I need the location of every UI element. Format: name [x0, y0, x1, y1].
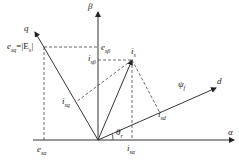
esalpha-label: esα [37, 145, 46, 156]
q-label: q [24, 24, 29, 33]
theta-label: θr [116, 128, 123, 139]
psi-label: ψf [178, 80, 185, 91]
esbeta-label: esβ [101, 43, 110, 54]
isq-label: isq [62, 97, 70, 108]
vector-diagram: β q d α esq=|Es| esβ isβ is isq ψf isd θ… [0, 0, 239, 161]
theta-arc [112, 134, 113, 140]
esq-label: esq=|Es| [7, 42, 34, 53]
beta-label: β [88, 2, 92, 11]
q-axis [35, 32, 98, 140]
isd-label: isd [158, 110, 166, 121]
d-label: d [217, 77, 222, 86]
is-label: is [131, 47, 136, 58]
is-vector [98, 60, 132, 140]
isalpha-label: isα [127, 144, 135, 155]
alpha-label: α [228, 128, 233, 137]
isbeta-label: isβ [88, 54, 96, 65]
